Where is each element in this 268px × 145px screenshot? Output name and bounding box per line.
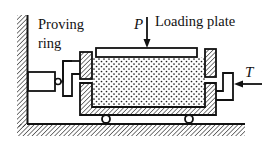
roller-right (185, 115, 193, 123)
normal-force-arrow (144, 17, 151, 48)
rollers (102, 115, 193, 123)
shear-force-label: T (245, 64, 255, 80)
direct-shear-diagram: Proving ring P Loading plate T (0, 0, 268, 145)
ground (17, 124, 245, 136)
proving-ring (28, 61, 80, 96)
proving-ring-label-line2: ring (38, 35, 61, 51)
roller-left (102, 115, 110, 123)
shear-force-connector (216, 73, 233, 100)
loading-plate (96, 48, 197, 57)
shear-force-arrow (234, 81, 262, 88)
soil-sample (92, 57, 205, 107)
proving-ring-label-line1: Proving (38, 16, 84, 32)
loading-plate-label: Loading plate (155, 13, 235, 29)
fixed-wall (17, 15, 28, 127)
normal-force-label: P (133, 16, 143, 32)
